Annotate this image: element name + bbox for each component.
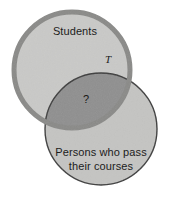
universe-marker-label: T — [105, 53, 112, 65]
set-passers-label-line-2: their courses — [69, 160, 134, 172]
set-students-label: Students — [53, 25, 98, 37]
set-passers-label-line-1: Persons who pass — [55, 146, 147, 158]
venn-diagram: Students T ? Persons who pass their cour… — [0, 0, 173, 201]
venn-diagram-canvas: Students T ? Persons who pass their cour… — [0, 0, 173, 201]
intersection-marker-label: ? — [83, 93, 89, 105]
